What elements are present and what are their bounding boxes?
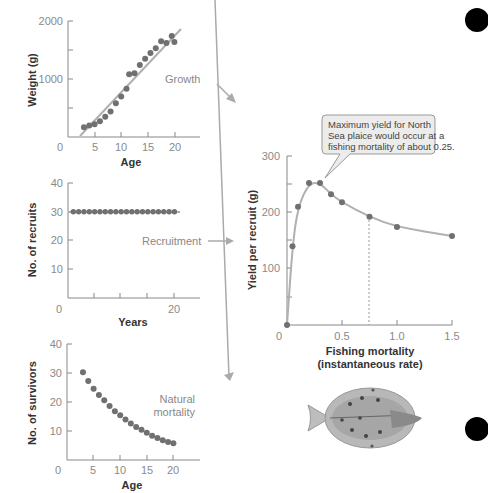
mortality-xtick-0: 0 — [55, 464, 61, 476]
data-point — [394, 224, 400, 230]
yield-ytick-300: 300 — [262, 150, 280, 162]
recruitment-note: Recruitment — [142, 235, 201, 247]
mortality-xtick-5: 5 — [90, 464, 96, 476]
yield-curve — [287, 183, 452, 325]
data-point — [101, 397, 107, 403]
yield-ytick-200: 200 — [262, 206, 280, 218]
data-point — [170, 440, 176, 446]
recruitment-ytick-20: 20 — [51, 234, 63, 246]
mortality-note-1: Natural — [160, 393, 195, 405]
growth-ylabel: Weight (g) — [26, 53, 38, 107]
data-point — [108, 108, 114, 114]
data-point — [339, 199, 345, 205]
mortality-xtick-15: 15 — [141, 464, 153, 476]
growth-ytick-2000: 2000 — [39, 15, 63, 27]
data-point — [295, 204, 301, 210]
data-point — [132, 70, 138, 76]
data-point — [142, 56, 148, 62]
growth-xtick-15: 15 — [142, 141, 154, 153]
data-point — [128, 420, 134, 426]
growth-xtick-0: 0 — [57, 141, 63, 153]
data-point — [156, 209, 161, 214]
recruitment-ytick-10: 10 — [51, 263, 63, 275]
data-point — [290, 243, 296, 249]
data-point — [103, 209, 108, 214]
page-marker-dot-bottom — [465, 417, 488, 441]
arrow-mortality — [215, 0, 229, 377]
data-point — [147, 50, 153, 56]
growth-xlabel: Age — [121, 156, 142, 168]
mortality-ylabel: No. of survivors — [26, 361, 38, 445]
mortality-note-2: mortality — [153, 406, 195, 418]
data-point — [126, 71, 132, 77]
data-point — [129, 209, 134, 214]
data-point — [306, 180, 312, 186]
mortality-xtick-20: 20 — [167, 464, 179, 476]
data-point — [328, 191, 334, 197]
yield-ytick-100: 100 — [262, 262, 280, 274]
data-point — [113, 100, 119, 106]
data-point — [112, 408, 118, 414]
data-point — [137, 62, 143, 68]
growth-xtick-10: 10 — [115, 141, 127, 153]
recruitment-xlabel: Years — [118, 316, 147, 328]
data-point — [149, 433, 155, 439]
yield-chart: 300 200 100 0 0.5 1.0 1.5 Fishing mortal… — [246, 115, 460, 370]
yield-xtick-1-5: 1.5 — [444, 330, 459, 342]
data-point — [76, 209, 81, 214]
callout-line-3: fishing mortality of about 0.25. — [328, 141, 455, 152]
yield-xlabel-line2: (instantaneous rate) — [317, 358, 422, 370]
growth-xtick-20: 20 — [169, 141, 181, 153]
mortality-xtick-10: 10 — [114, 464, 126, 476]
growth-xtick-5: 5 — [92, 141, 98, 153]
data-point — [154, 435, 160, 441]
mortality-ytick-30: 30 — [50, 367, 62, 379]
data-point — [107, 403, 113, 409]
recruitment-xtick-0: 0 — [56, 303, 62, 315]
data-point — [150, 209, 155, 214]
mortality-ytick-40: 40 — [50, 338, 62, 350]
data-point — [171, 39, 177, 45]
data-point — [172, 209, 177, 214]
data-point — [124, 86, 130, 92]
data-point — [81, 209, 86, 214]
page-marker-dot-top — [465, 8, 488, 32]
yield-xtick-0-5: 0.5 — [334, 330, 349, 342]
data-point — [133, 424, 139, 430]
data-point — [161, 209, 166, 214]
data-point — [145, 209, 150, 214]
data-point — [367, 214, 373, 220]
data-point — [86, 122, 92, 128]
yield-xtick-1-0: 1.0 — [389, 330, 404, 342]
data-point — [92, 121, 98, 127]
data-point — [169, 33, 175, 39]
growth-chart: 2000 1000 0 5 10 15 20 Age Weight (g) Gr… — [26, 15, 200, 168]
data-point — [87, 209, 92, 214]
data-point — [108, 209, 113, 214]
data-point — [317, 180, 323, 186]
data-point — [144, 430, 150, 436]
data-point — [140, 209, 145, 214]
data-point — [134, 209, 139, 214]
data-point — [119, 209, 124, 214]
mortality-ytick-10: 10 — [50, 425, 62, 437]
data-point — [138, 427, 144, 433]
recruitment-ylabel: No. of recruits — [26, 203, 38, 278]
data-point — [123, 416, 129, 422]
data-point — [158, 38, 164, 44]
growth-ytick-1000: 1000 — [39, 73, 63, 85]
data-point — [85, 378, 91, 384]
data-point — [118, 93, 124, 99]
data-point — [153, 45, 159, 51]
data-point — [165, 439, 171, 445]
figure-canvas: 2000 1000 0 5 10 15 20 Age Weight (g) Gr… — [0, 0, 488, 493]
data-point — [166, 209, 171, 214]
data-point — [96, 392, 102, 398]
yield-ylabel: Yield per recruit (g) — [246, 189, 258, 290]
recruitment-ytick-40: 40 — [51, 177, 63, 189]
data-point — [71, 209, 76, 214]
yield-xlabel-line1: Fishing mortality — [326, 345, 416, 357]
recruitment-chart: 40 30 20 10 0 20 Years No. of recruits R… — [26, 177, 234, 328]
recruitment-points — [71, 209, 177, 214]
data-point — [92, 209, 97, 214]
